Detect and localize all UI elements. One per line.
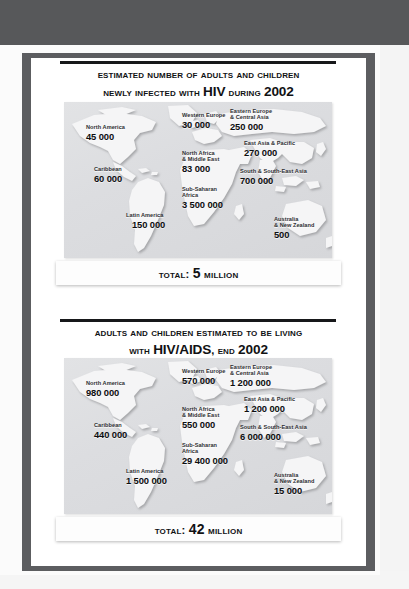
region-value-australia-nz-2: 15 000 <box>274 486 302 496</box>
panel-title-line2-2: with HIV/AIDS, end 2002 <box>43 341 354 359</box>
region-label-north-africa: North Africa& Middle East <box>182 150 219 163</box>
region-label-south-asia-2: South & South-East Asia <box>240 424 307 430</box>
region-value-north-america-2: 980 000 <box>86 388 119 398</box>
region-value-eastern-europe-2: 1 200 000 <box>230 378 271 388</box>
region-label-north-africa-2: North Africa& Middle East <box>182 406 219 419</box>
total-unit-2: million <box>205 524 243 536</box>
title-mid: during <box>225 86 264 98</box>
region-value-caribbean-2: 440 000 <box>94 430 127 440</box>
world-map-living-with-hiv: North America 980 000 Caribbean 440 000 … <box>64 358 332 514</box>
region-label-latin-america: Latin America <box>126 212 163 218</box>
title-hiv-aids: HIV/AIDS <box>153 342 211 357</box>
panel-living-with-hiv: Adults and children estimated to be livi… <box>31 316 366 566</box>
total-value-2: 42 <box>189 521 205 537</box>
region-label-north-america: North America <box>86 124 125 130</box>
region-value-east-asia-pacific: 270 000 <box>244 148 277 158</box>
region-label-south-asia: South & South-East Asia <box>240 168 307 174</box>
title-hiv: HIV <box>203 84 225 99</box>
title-year-2: 2002 <box>238 342 268 357</box>
region-label-eastern-europe-2: Eastern Europe& Central Asia <box>230 364 272 377</box>
region-value-western-europe: 30 000 <box>182 120 210 130</box>
region-label-north-america-2: North America <box>86 380 125 386</box>
region-value-latin-america: 150 000 <box>132 220 165 230</box>
title-year: 2002 <box>264 84 294 99</box>
region-value-north-america: 45 000 <box>86 132 114 142</box>
region-value-sub-saharan-africa-2: 29 400 000 <box>182 456 228 466</box>
region-value-western-europe-2: 570 000 <box>182 376 215 386</box>
panel-title-newly-infected: Estimated number of adults and children … <box>43 66 354 101</box>
panel-title-line1: Estimated number of adults and children <box>43 66 354 83</box>
region-value-latin-america-2: 1 500 000 <box>126 476 167 486</box>
region-label-caribbean-2: Caribbean <box>94 422 122 428</box>
region-value-east-asia-pacific-2: 1 200 000 <box>244 404 285 414</box>
region-value-south-asia: 700 000 <box>240 176 273 186</box>
region-value-sub-saharan-africa: 3 500 000 <box>182 200 223 210</box>
panel-title-living-with-hiv: Adults and children estimated to be livi… <box>43 324 354 359</box>
panel-title-line2: newly infected with HIV during 2002 <box>43 83 354 101</box>
photo-top-band <box>0 0 409 45</box>
region-label-eastern-europe: Eastern Europe& Central Asia <box>230 108 272 121</box>
total-text-living-with-hiv: Total: 42 million <box>155 521 243 537</box>
region-label-east-asia-pacific: East Asia & Pacific <box>244 140 295 146</box>
panel-newly-infected: Estimated number of adults and children … <box>31 58 366 310</box>
region-value-caribbean: 60 000 <box>94 174 122 184</box>
world-map-newly-infected: North America 45 000 Caribbean 60 000 La… <box>64 102 332 258</box>
total-unit: million <box>201 268 239 280</box>
region-label-western-europe-2: Western Europe <box>182 368 226 374</box>
region-label-east-asia-pacific-2: East Asia & Pacific <box>244 396 295 402</box>
region-value-north-africa-2: 550 000 <box>182 420 215 430</box>
total-bar-newly-infected: Total: 5 million <box>56 261 341 285</box>
region-value-eastern-europe: 250 000 <box>230 122 263 132</box>
title-mid-2: , end <box>211 344 238 356</box>
title-pre-2: with <box>129 344 153 356</box>
region-label-western-europe: Western Europe <box>182 112 226 118</box>
region-label-australia-nz-2: Australia& New Zealand <box>274 472 314 485</box>
region-value-north-africa: 83 000 <box>182 164 210 174</box>
poster-content: Estimated number of adults and children … <box>31 58 366 566</box>
total-value: 5 <box>193 265 201 281</box>
photo-right-strip <box>375 45 409 589</box>
region-label-latin-america-2: Latin America <box>126 468 163 474</box>
page-root: Estimated number of adults and children … <box>0 0 409 589</box>
total-bar-living-with-hiv: Total: 42 million <box>56 517 341 541</box>
region-label-sub-saharan-africa: Sub-SaharanAfrica <box>182 186 217 199</box>
panel-rule-top <box>60 61 336 64</box>
total-label: Total: <box>159 268 193 280</box>
region-label-australia-nz: Australia& New Zealand <box>274 216 314 229</box>
region-label-caribbean: Caribbean <box>94 166 122 172</box>
total-text-newly-infected: Total: 5 million <box>159 265 239 281</box>
panel-rule-top-2 <box>60 319 336 322</box>
title-pre: newly infected with <box>103 86 203 98</box>
region-value-australia-nz: 500 <box>274 230 289 240</box>
region-value-south-asia-2: 6 000 000 <box>240 432 281 442</box>
region-label-sub-saharan-africa-2: Sub-SaharanAfrica <box>182 442 217 455</box>
total-label-2: Total: <box>155 524 189 536</box>
panel-title-line1-2: Adults and children estimated to be livi… <box>43 324 354 341</box>
